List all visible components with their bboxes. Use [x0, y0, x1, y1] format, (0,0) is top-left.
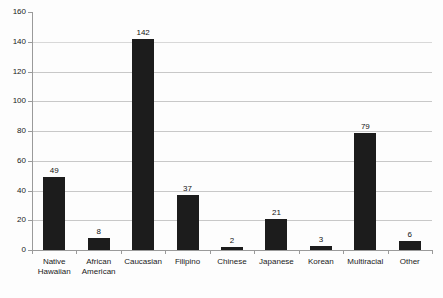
x-axis-label-line: Multiracial	[343, 257, 387, 267]
x-tick-mark	[165, 250, 166, 254]
x-tick-mark	[432, 250, 433, 254]
x-axis-label-line: American	[76, 267, 120, 277]
bar-value-label: 6	[408, 231, 412, 239]
x-axis-label-line: Caucasian	[121, 257, 165, 267]
bar-rect	[43, 177, 65, 250]
x-axis-label: Chinese	[210, 257, 254, 267]
y-tick-label: 100	[13, 97, 26, 105]
plot-area: 498142372213796	[32, 12, 432, 250]
y-tick-mark	[28, 101, 32, 102]
x-axis-label: Filipino	[165, 257, 209, 267]
x-axis-label-line: Native	[32, 257, 76, 267]
x-tick-mark	[210, 250, 211, 254]
y-tick-mark	[28, 12, 32, 13]
y-tick-mark	[28, 72, 32, 73]
x-axis-label-line: African	[76, 257, 120, 267]
x-axis-label: NativeHawaiian	[32, 257, 76, 277]
y-tick-label: 0	[22, 246, 26, 254]
x-axis-line	[32, 250, 432, 251]
bar-value-label: 49	[50, 167, 59, 175]
gridline	[32, 42, 432, 43]
y-tick-mark	[28, 131, 32, 132]
gridline	[32, 72, 432, 73]
x-axis-label: Caucasian	[121, 257, 165, 267]
gridline	[32, 101, 432, 102]
bar-rect	[354, 133, 376, 251]
x-tick-mark	[343, 250, 344, 254]
x-axis-label: Korean	[299, 257, 343, 267]
bar-value-label: 3	[319, 236, 323, 244]
bar-value-label: 79	[361, 123, 370, 131]
bar-chart: 498142372213796 020406080100120140160 Na…	[0, 0, 443, 298]
x-tick-mark	[299, 250, 300, 254]
bar: 37	[177, 195, 199, 250]
x-tick-mark	[76, 250, 77, 254]
y-tick-mark	[28, 42, 32, 43]
bar: 6	[399, 241, 421, 250]
x-tick-mark	[32, 250, 33, 254]
x-tick-mark	[254, 250, 255, 254]
x-axis-label-line: Hawaiian	[32, 267, 76, 277]
y-tick-label: 140	[13, 38, 26, 46]
bar: 8	[88, 238, 110, 250]
bar-value-label: 142	[136, 29, 149, 37]
bar-rect	[177, 195, 199, 250]
bar-value-label: 21	[272, 209, 281, 217]
bar: 142	[132, 39, 154, 250]
y-tick-label: 80	[17, 127, 26, 135]
bar-rect	[399, 241, 421, 250]
y-tick-label: 60	[17, 157, 26, 165]
bar: 79	[354, 133, 376, 251]
y-axis-line	[32, 12, 33, 251]
y-tick-label: 40	[17, 187, 26, 195]
y-tick-label: 20	[17, 216, 26, 224]
bar: 21	[265, 219, 287, 250]
y-tick-label: 160	[13, 8, 26, 16]
bar-rect	[265, 219, 287, 250]
bar-value-label: 37	[183, 185, 192, 193]
bar: 49	[43, 177, 65, 250]
x-axis-label: AfricanAmerican	[76, 257, 120, 277]
y-tick-mark	[28, 220, 32, 221]
bar-value-label: 2	[230, 237, 234, 245]
x-axis-label: Japanese	[254, 257, 298, 267]
x-axis-label: Other	[388, 257, 432, 267]
x-axis-label-line: Filipino	[165, 257, 209, 267]
x-tick-mark	[121, 250, 122, 254]
x-axis-label-line: Chinese	[210, 257, 254, 267]
bar-rect	[88, 238, 110, 250]
x-axis-label-line: Other	[388, 257, 432, 267]
y-tick-mark	[28, 161, 32, 162]
y-tick-label: 120	[13, 68, 26, 76]
y-tick-mark	[28, 191, 32, 192]
bar-value-label: 8	[96, 228, 100, 236]
x-axis-label: Multiracial	[343, 257, 387, 267]
x-axis-label-line: Korean	[299, 257, 343, 267]
x-axis-label-line: Japanese	[254, 257, 298, 267]
bar-rect	[132, 39, 154, 250]
x-tick-mark	[388, 250, 389, 254]
